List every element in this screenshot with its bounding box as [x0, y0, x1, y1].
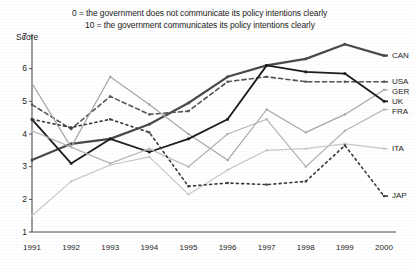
series-marker-ita [305, 148, 307, 150]
series-marker-ita [266, 149, 268, 151]
series-marker-ita [31, 215, 33, 217]
series-marker-uk [344, 72, 347, 75]
legend-label-jap: JAP [392, 191, 407, 200]
chart-container: 0 = the government does not communicate … [0, 0, 415, 269]
series-marker-fra [31, 130, 33, 132]
x-tick-label: 1998 [286, 243, 326, 252]
series-marker-ger [344, 113, 346, 115]
x-tick-label: 2000 [364, 243, 404, 252]
x-tick-label: 1991 [12, 243, 52, 252]
legend-label-uk: UK [392, 97, 403, 106]
series-marker-ger [109, 76, 111, 78]
y-tick-label: 2 [11, 194, 27, 204]
series-marker-jap [31, 118, 33, 120]
series-marker-ger [227, 159, 229, 161]
x-tick-label: 1995 [168, 243, 208, 252]
series-marker-ita [187, 193, 189, 195]
series-marker-uk [109, 138, 112, 141]
series-marker-usa [227, 81, 229, 83]
series-marker-can [344, 43, 347, 46]
legend-label-fra: FRA [392, 107, 408, 116]
series-marker-can [148, 123, 151, 126]
series-marker-ita [227, 169, 229, 171]
series-marker-uk [187, 138, 190, 141]
y-tick-label: 7 [11, 31, 27, 41]
series-marker-usa [266, 76, 268, 78]
series-marker-uk [148, 151, 151, 154]
series-marker-can [226, 76, 229, 79]
x-tick-label: 1994 [129, 243, 169, 252]
series-marker-fra [148, 148, 150, 150]
series-marker-fra [266, 118, 268, 120]
series-marker-fra [70, 146, 72, 148]
series-marker-jap [266, 184, 268, 186]
series-marker-jap [227, 182, 229, 184]
series-marker-usa [344, 81, 346, 83]
series-marker-jap [305, 180, 307, 182]
series-marker-jap [70, 126, 72, 128]
series-marker-can [31, 159, 34, 162]
series-marker-usa [31, 104, 33, 106]
legend-label-ger: GER [392, 87, 409, 96]
y-tick-label: 4 [11, 129, 27, 139]
series-marker-usa [148, 113, 150, 115]
series-marker-jap [344, 144, 346, 146]
series-marker-jap [109, 118, 111, 120]
series-marker-fra [305, 166, 307, 168]
y-tick-label: 5 [11, 96, 27, 106]
series-line-uk [32, 65, 384, 163]
series-line-jap [32, 119, 384, 196]
series-marker-ger [148, 104, 150, 106]
series-marker-ita [148, 156, 150, 158]
series-marker-fra [187, 166, 189, 168]
y-tick-label: 6 [11, 63, 27, 73]
y-tick-label: 3 [11, 161, 27, 171]
series-marker-usa [109, 95, 111, 97]
series-marker-uk [305, 71, 308, 74]
series-marker-uk [226, 118, 229, 121]
series-marker-can [305, 58, 308, 61]
series-marker-fra [227, 133, 229, 135]
plot-area [0, 0, 415, 269]
series-marker-ita [70, 180, 72, 182]
series-marker-usa [187, 110, 189, 112]
x-tick-label: 1992 [51, 243, 91, 252]
x-tick-label: 1997 [247, 243, 287, 252]
series-marker-jap [187, 185, 189, 187]
series-marker-can [187, 102, 190, 105]
series-marker-ger [31, 82, 33, 84]
series-marker-jap [148, 131, 150, 133]
x-tick-label: 1999 [325, 243, 365, 252]
series-marker-ita [109, 164, 111, 166]
series-marker-fra [344, 130, 346, 132]
series-marker-uk [265, 64, 268, 67]
series-marker-ger [266, 108, 268, 110]
x-tick-label: 1996 [208, 243, 248, 252]
legend-label-usa: USA [392, 77, 408, 86]
y-tick-label: 1 [11, 227, 27, 237]
legend-label-can: CAN [392, 51, 409, 60]
legend-label-ita: ITA [392, 144, 404, 153]
series-marker-usa [305, 81, 307, 83]
series-marker-ger [187, 133, 189, 135]
series-marker-ger [305, 131, 307, 133]
x-tick-label: 1993 [90, 243, 130, 252]
series-marker-uk [70, 162, 73, 165]
